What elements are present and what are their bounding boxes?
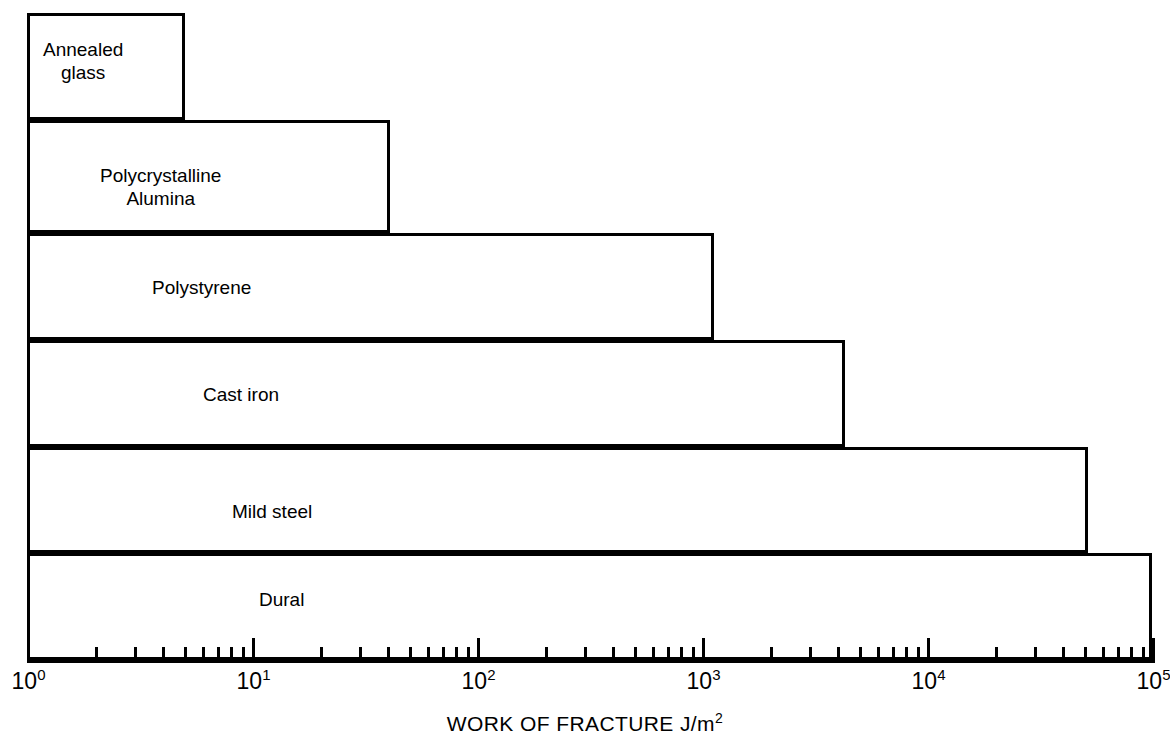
x-tick-minor-8000 <box>905 647 908 660</box>
x-tick-minor-3000 <box>809 647 812 660</box>
x-tick-minor-7 <box>217 647 220 660</box>
x-tick-minor-2 <box>95 647 98 660</box>
x-tick-label-10e0: 100 <box>12 670 46 693</box>
x-tick-minor-5 <box>184 647 187 660</box>
x-tick-minor-500 <box>634 647 637 660</box>
x-tick-minor-20 <box>320 647 323 660</box>
work-of-fracture-bar-chart: Annealed glassPolycrystalline AluminaPol… <box>0 0 1170 753</box>
x-tick-major-10e1 <box>252 638 255 660</box>
x-tick-major-10e3 <box>702 638 705 660</box>
x-tick-minor-600 <box>652 647 655 660</box>
bar-label-5: Dural <box>259 588 304 611</box>
bar-label-3: Cast iron <box>203 383 279 406</box>
bar-4 <box>27 447 1088 553</box>
x-tick-major-10e4 <box>927 638 930 660</box>
x-tick-minor-2000 <box>770 647 773 660</box>
x-tick-minor-4000 <box>837 647 840 660</box>
x-tick-minor-80 <box>455 647 458 660</box>
x-tick-major-10e5 <box>1152 638 1155 660</box>
x-axis-baseline <box>27 660 1155 663</box>
bar-3 <box>27 340 845 447</box>
bar-label-1: Polycrystalline Alumina <box>100 164 221 210</box>
x-tick-minor-40 <box>387 647 390 660</box>
x-tick-minor-60 <box>427 647 430 660</box>
x-tick-minor-80000 <box>1130 647 1133 660</box>
x-tick-label-10e2: 102 <box>462 670 496 693</box>
x-tick-label-10e1: 101 <box>237 670 271 693</box>
x-axis-title: WORK OF FRACTURE J/m2 <box>0 712 1170 736</box>
x-tick-minor-50000 <box>1084 647 1087 660</box>
x-tick-minor-9 <box>242 647 245 660</box>
x-tick-minor-900 <box>692 647 695 660</box>
x-tick-minor-300 <box>584 647 587 660</box>
bar-label-4: Mild steel <box>232 500 312 523</box>
x-tick-minor-20000 <box>995 647 998 660</box>
x-tick-minor-9000 <box>917 647 920 660</box>
x-tick-minor-800 <box>680 647 683 660</box>
x-tick-minor-200 <box>545 647 548 660</box>
x-tick-minor-60000 <box>1102 647 1105 660</box>
x-tick-minor-70 <box>442 647 445 660</box>
x-tick-minor-30 <box>359 647 362 660</box>
x-tick-minor-7000 <box>892 647 895 660</box>
x-tick-minor-40000 <box>1062 647 1065 660</box>
x-tick-minor-90000 <box>1142 647 1145 660</box>
x-tick-minor-5000 <box>859 647 862 660</box>
x-tick-minor-3 <box>134 647 137 660</box>
x-tick-minor-4 <box>162 647 165 660</box>
x-tick-minor-6 <box>202 647 205 660</box>
bar-label-0: Annealed glass <box>43 38 123 84</box>
bar-2 <box>27 233 714 340</box>
x-tick-minor-400 <box>612 647 615 660</box>
x-tick-label-10e3: 103 <box>687 670 721 693</box>
x-tick-label-10e5: 105 <box>1137 670 1170 693</box>
x-tick-minor-50 <box>409 647 412 660</box>
x-tick-minor-70000 <box>1117 647 1120 660</box>
x-tick-label-10e4: 104 <box>912 670 946 693</box>
x-tick-minor-90 <box>467 647 470 660</box>
bar-5 <box>27 553 1152 660</box>
x-tick-minor-6000 <box>877 647 880 660</box>
x-tick-minor-30000 <box>1034 647 1037 660</box>
x-tick-major-10e0 <box>27 638 30 660</box>
bar-label-2: Polystyrene <box>152 276 251 299</box>
x-tick-minor-8 <box>230 647 233 660</box>
x-tick-major-10e2 <box>477 638 480 660</box>
x-tick-minor-700 <box>667 647 670 660</box>
